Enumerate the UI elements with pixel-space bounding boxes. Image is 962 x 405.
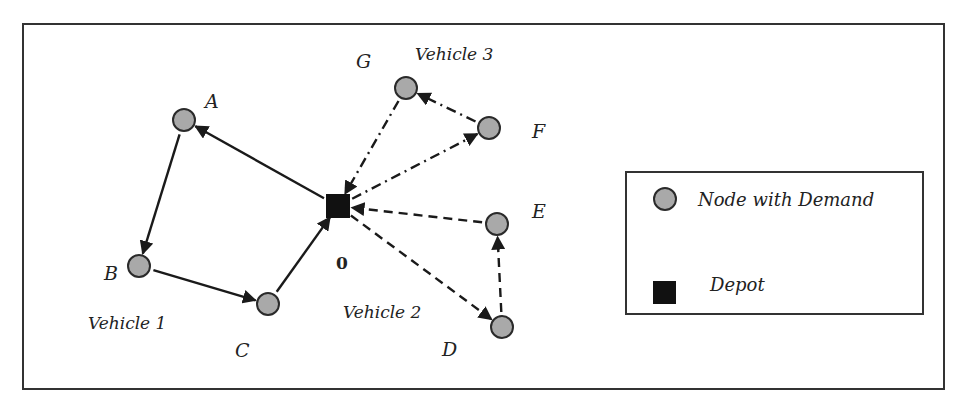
legend-depot-icon — [653, 281, 676, 304]
edge-g-to-0 — [345, 101, 399, 194]
edge-e-to-0 — [352, 208, 482, 223]
legend-node-icon — [654, 188, 676, 210]
demand-node-d — [491, 316, 513, 338]
vehicle-1-label: Vehicle 1 — [88, 313, 166, 333]
edge-b-to-c — [153, 270, 255, 300]
edge-d-to-e — [498, 237, 502, 312]
edge-a-to-b — [143, 134, 180, 253]
demand-node-b — [128, 255, 150, 277]
vehicle-3-label: Vehicle 3 — [415, 44, 493, 64]
route-nodes — [128, 77, 513, 338]
route-edges — [143, 94, 502, 320]
vrp-diagram: A B C D E F G 0 Vehicle 1 Vehicle 2 Vehi… — [0, 0, 962, 405]
demand-node-f — [478, 117, 500, 139]
node-label-c: C — [235, 339, 250, 361]
legend-node-label: Node with Demand — [697, 189, 874, 210]
demand-node-a — [173, 109, 195, 131]
edge-c-to-0 — [277, 217, 330, 291]
edge-f-to-g — [418, 94, 476, 122]
edge-0-to-a — [195, 126, 324, 198]
depot-label: 0 — [336, 253, 348, 273]
node-label-f: F — [531, 120, 546, 142]
node-label-d: D — [441, 338, 457, 360]
vehicle-2-label: Vehicle 2 — [343, 302, 421, 322]
depot-node — [326, 194, 350, 218]
node-label-e: E — [531, 200, 546, 222]
legend-depot-label: Depot — [709, 274, 765, 295]
node-label-b: B — [103, 262, 118, 284]
edge-0-to-f — [352, 134, 477, 199]
legend: Node with Demand Depot — [626, 172, 923, 314]
node-label-a: A — [203, 90, 219, 112]
demand-node-g — [395, 77, 417, 99]
demand-node-c — [257, 293, 279, 315]
demand-node-e — [486, 213, 508, 235]
node-label-g: G — [356, 50, 371, 72]
